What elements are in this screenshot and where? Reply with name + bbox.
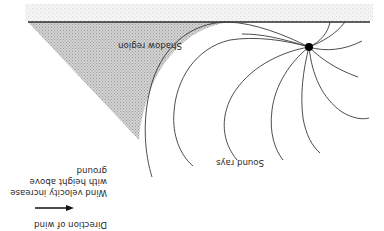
direction-of-wind-label: Direction of wind bbox=[34, 220, 107, 230]
sound-ray bbox=[309, 47, 369, 119]
sound-ray bbox=[302, 47, 320, 153]
wind-direction-arrow bbox=[35, 205, 74, 211]
sound-ray bbox=[309, 22, 345, 47]
sound-rays-label: Sound rays bbox=[215, 158, 264, 168]
sound-ray bbox=[174, 38, 309, 166]
wind-velocity-label-line2: with height above bbox=[30, 177, 107, 187]
wind-velocity-label-line1: Wind velocity increase bbox=[10, 188, 107, 198]
sound-ray bbox=[224, 47, 309, 160]
sound-ray bbox=[309, 47, 358, 77]
wind-velocity-label-line3: ground bbox=[77, 166, 107, 176]
sound-ray bbox=[309, 22, 330, 47]
sound-ray bbox=[271, 47, 309, 160]
shadow-region bbox=[28, 22, 232, 140]
ground-texture bbox=[25, 4, 373, 21]
sound-refraction-diagram: Shadow region Sound rays Wind velocity i… bbox=[0, 0, 384, 231]
sound-source bbox=[305, 43, 313, 51]
sound-ray bbox=[242, 34, 309, 47]
shadow-region-label: Shadow region bbox=[118, 41, 182, 51]
